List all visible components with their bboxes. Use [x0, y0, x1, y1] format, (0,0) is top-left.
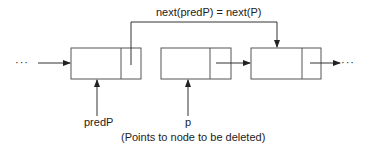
caption: (Points to node to be deleted) [121, 132, 265, 143]
bypass-link-arrow [131, 22, 277, 65]
bypass-label: next(predP) = next(P) [156, 7, 261, 18]
left-ellipsis: ··· [15, 57, 29, 68]
p-label: p [185, 117, 191, 128]
right-ellipsis: ··· [341, 57, 355, 68]
predP-label: predP [84, 117, 113, 128]
